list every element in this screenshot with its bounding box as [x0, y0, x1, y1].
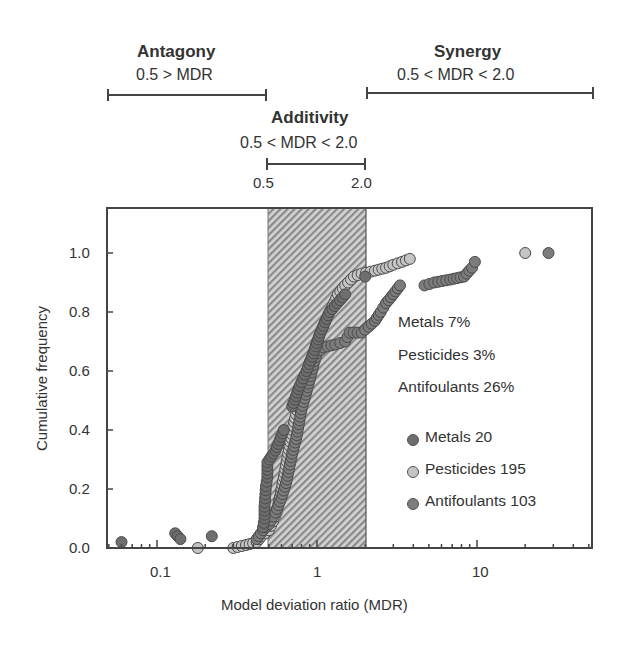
pesticides-point — [404, 253, 415, 264]
legend-antifoulants: Antifoulants 103 — [425, 492, 536, 510]
legend-pesticides: Pesticides 195 — [425, 460, 526, 478]
xtick-1: 1 — [313, 563, 321, 580]
antifoulants-point — [395, 280, 406, 291]
metals-point — [278, 425, 289, 436]
ytick-1.0: 1.0 — [69, 244, 90, 261]
y-axis-title: Cumulative frequency — [33, 304, 50, 454]
ytick-0.4: 0.4 — [69, 421, 90, 438]
metals-percent: Metals 7% — [398, 313, 470, 331]
xtick-0.1: 0.1 — [150, 563, 171, 580]
antifoulants-point — [543, 248, 554, 259]
ytick-0.8: 0.8 — [69, 303, 90, 320]
metals-marker-icon — [407, 434, 419, 446]
xtick-10: 10 — [472, 563, 489, 580]
metals-point — [175, 534, 186, 545]
ytick-0.6: 0.6 — [69, 362, 90, 379]
ytick-0.2: 0.2 — [69, 480, 90, 497]
ytick-0.0: 0.0 — [69, 539, 90, 556]
pesticides-point — [520, 248, 531, 259]
pesticides-percent: Pesticides 3% — [398, 346, 495, 364]
antifoulants-percent: Antifoulants 26% — [398, 378, 514, 396]
x-axis-title: Model deviation ratio (MDR) — [221, 596, 408, 613]
metals-point — [360, 271, 371, 282]
legend-metals: Metals 20 — [425, 428, 492, 446]
cumulative-frequency-chart — [0, 0, 632, 646]
metals-point — [206, 531, 217, 542]
metals-point — [340, 289, 351, 300]
legend: Metals 20 Pesticides 195 Antifoulants 10… — [405, 428, 585, 518]
antifoulants-marker-icon — [407, 498, 419, 510]
antifoulants-point — [469, 256, 480, 267]
pesticides-marker-icon — [407, 466, 419, 478]
